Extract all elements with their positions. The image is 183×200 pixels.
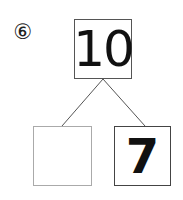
known-part-value: 7 <box>126 128 159 184</box>
problem-number: ⑥ <box>12 21 34 43</box>
known-part-box: 7 <box>114 126 171 186</box>
connector-right <box>103 79 145 126</box>
missing-part-box[interactable] <box>33 126 92 186</box>
whole-number-box: 10 <box>74 19 132 79</box>
whole-value: 10 <box>73 20 133 78</box>
connector-left <box>62 79 103 126</box>
